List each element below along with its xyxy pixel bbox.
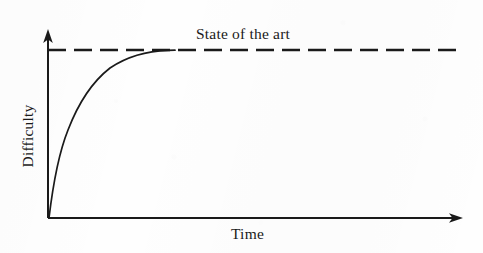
figure-container: State of the art Time Difficulty	[0, 0, 483, 253]
x-axis-label: Time	[231, 226, 264, 242]
y-axis-label: Difficulty	[20, 105, 36, 168]
asymptote-label: State of the art	[196, 26, 290, 42]
difficulty-curve	[49, 50, 175, 218]
